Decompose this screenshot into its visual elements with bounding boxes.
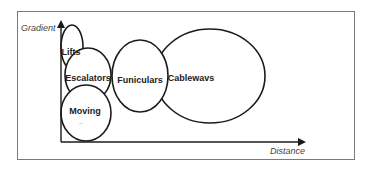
label-funiculars: Funiculars	[117, 75, 163, 85]
label-moving: Moving	[69, 106, 101, 116]
diagram-canvas	[0, 0, 381, 171]
label-cableways: Cablewavs	[168, 73, 215, 83]
y-axis-label: Gradient	[21, 23, 56, 33]
label-lifts: Lifts	[62, 47, 81, 57]
label-escalators: Escalators	[65, 73, 111, 83]
x-axis-label: Distance	[270, 146, 305, 156]
label-moving-continuation: ..	[79, 118, 83, 125]
